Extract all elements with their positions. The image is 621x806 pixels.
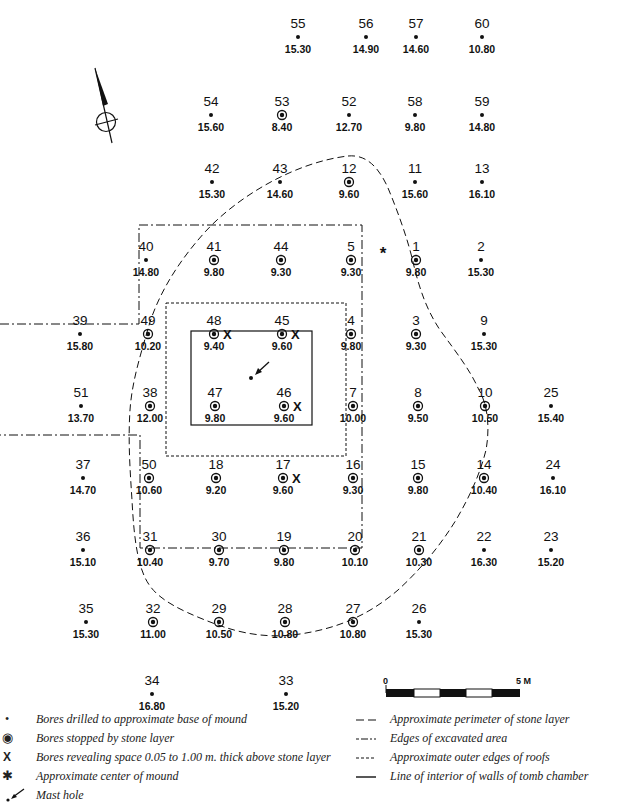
bore-depth: 15.30 bbox=[199, 188, 225, 200]
bore-number: 39 bbox=[72, 313, 87, 328]
bore-11: 1115.60 bbox=[402, 161, 428, 200]
bore-number: 16 bbox=[345, 457, 360, 472]
bore-dot-icon bbox=[353, 548, 357, 552]
scale-end-label: 5 M bbox=[516, 676, 531, 686]
bore-dot-icon bbox=[480, 113, 484, 117]
legend-label: Edges of excavated area bbox=[390, 730, 507, 746]
bore-dot-icon bbox=[416, 404, 420, 408]
bore-dot-icon bbox=[146, 332, 150, 336]
bore-28: 2810.80 bbox=[272, 601, 298, 640]
bore-21: 2110.30 bbox=[406, 529, 432, 568]
bore-34: 3416.80 bbox=[139, 673, 165, 712]
bore-number: 53 bbox=[274, 94, 289, 109]
bore-3: 39.30 bbox=[406, 313, 427, 352]
bore-depth: 13.70 bbox=[68, 412, 94, 424]
bore-48: 48X9.40 bbox=[204, 313, 232, 352]
ring-dot-icon: ◉ bbox=[0, 730, 18, 746]
bore-dot-icon bbox=[551, 476, 555, 480]
bore-43: 4314.60 bbox=[267, 161, 293, 200]
bore-dot-icon bbox=[283, 620, 287, 624]
bore-dot-icon bbox=[364, 35, 368, 39]
bore-dot-icon bbox=[482, 548, 486, 552]
bore-number: 44 bbox=[273, 239, 289, 254]
legend-label: Bores drilled to approximate base of mou… bbox=[36, 711, 247, 727]
bore-dot-icon bbox=[151, 620, 155, 624]
bore-number: 56 bbox=[358, 16, 373, 31]
bore-number: 14 bbox=[476, 457, 492, 472]
bore-number: 43 bbox=[272, 161, 287, 176]
bore-45: 45X9.60 bbox=[272, 313, 300, 352]
bore-depth: 16.10 bbox=[540, 484, 566, 496]
bore-number: 26 bbox=[411, 601, 426, 616]
bore-dot-icon bbox=[81, 476, 85, 480]
bore-number: 47 bbox=[207, 385, 222, 400]
bore-number: 10 bbox=[477, 385, 492, 400]
bore-depth: 9.40 bbox=[204, 340, 225, 352]
bore-dot-icon bbox=[413, 180, 417, 184]
bore-number: 41 bbox=[206, 239, 221, 254]
bore-depth: 9.50 bbox=[408, 412, 429, 424]
bore-number: 46 bbox=[276, 385, 291, 400]
scale-bar: 0 5 M bbox=[383, 676, 531, 697]
bore-number: 8 bbox=[414, 385, 422, 400]
bore-number: 23 bbox=[543, 529, 558, 544]
bore-dot-icon bbox=[279, 258, 283, 262]
bore-depth: 15.20 bbox=[538, 556, 564, 568]
bore-depth: 15.30 bbox=[471, 340, 497, 352]
center-of-mound-icon: * bbox=[380, 244, 387, 263]
bore-10: 1010.50 bbox=[472, 385, 498, 424]
bore-33: 3315.20 bbox=[273, 673, 299, 712]
bore-number: 50 bbox=[141, 457, 156, 472]
bore-number: 20 bbox=[347, 529, 362, 544]
bore-number: 11 bbox=[408, 161, 422, 176]
bore-depth: 15.30 bbox=[468, 266, 494, 278]
bore-dot-icon bbox=[214, 476, 218, 480]
bore-number: 21 bbox=[411, 529, 426, 544]
bore-depth: 15.60 bbox=[402, 188, 428, 200]
bore-41: 419.80 bbox=[204, 239, 225, 278]
bore-depth: 14.60 bbox=[403, 43, 429, 55]
bore-13: 1316.10 bbox=[469, 161, 495, 200]
bore-depth: 9.60 bbox=[274, 412, 295, 424]
bore-47: 479.80 bbox=[205, 385, 226, 424]
bore-depth: 11.00 bbox=[140, 628, 166, 640]
bore-depth: 10.80 bbox=[272, 628, 298, 640]
bore-depth: 9.60 bbox=[272, 340, 293, 352]
bore-27: 2710.80 bbox=[340, 601, 366, 640]
bore-7: 710.00 bbox=[340, 385, 366, 424]
bore-number: 40 bbox=[138, 239, 153, 254]
bore-42: 4215.30 bbox=[199, 161, 225, 200]
bore-dot-icon bbox=[213, 404, 217, 408]
bore-depth: 16.10 bbox=[469, 188, 495, 200]
bore-number: 59 bbox=[474, 94, 489, 109]
bore-46: 46X9.60 bbox=[274, 385, 302, 424]
bore-dot-icon bbox=[349, 332, 353, 336]
bore-dot-icon bbox=[217, 548, 221, 552]
legend-label: Bores stopped by stone layer bbox=[36, 730, 174, 746]
bore-dot-icon bbox=[209, 113, 213, 117]
bore-dot-icon bbox=[351, 620, 355, 624]
bore-depth: 15.30 bbox=[406, 628, 432, 640]
bore-depth: 9.80 bbox=[341, 340, 362, 352]
bore-5: 59.30 bbox=[341, 239, 362, 278]
space-x-icon: X bbox=[223, 327, 232, 342]
bore-number: 51 bbox=[73, 385, 88, 400]
bore-depth: 10.40 bbox=[137, 556, 163, 568]
bore-depth: 10.00 bbox=[340, 412, 366, 424]
bore-depth: 8.40 bbox=[272, 121, 293, 133]
bore-29: 2910.50 bbox=[206, 601, 232, 640]
mast-hole-icon bbox=[249, 362, 269, 380]
bore-depth: 9.80 bbox=[406, 266, 427, 278]
scale-start-label: 0 bbox=[383, 676, 388, 686]
bore-dot-icon bbox=[480, 180, 484, 184]
bore-number: 55 bbox=[290, 16, 305, 31]
bore-dot-icon bbox=[482, 332, 486, 336]
bore-depth: 15.30 bbox=[73, 628, 99, 640]
legend-label: Line of interior of walls of tomb chambe… bbox=[390, 768, 588, 784]
bore-dot-icon bbox=[483, 404, 487, 408]
bore-number: 25 bbox=[543, 385, 558, 400]
dot-icon: • bbox=[0, 711, 18, 727]
bore-number: 54 bbox=[203, 94, 219, 109]
bore-dot-icon bbox=[414, 35, 418, 39]
bore-number: 38 bbox=[142, 385, 157, 400]
